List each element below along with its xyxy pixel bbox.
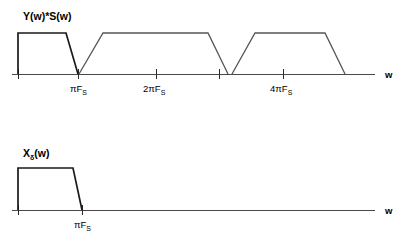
- baseband-spectrum: [18, 168, 82, 210]
- tick-label-4pi-fs: 4πFS: [270, 83, 293, 96]
- bottom-plot-title: Xδ(w): [23, 147, 49, 161]
- top-plot: Y(w)*S(w) πFS 2πFS 4πFS: [12, 10, 393, 96]
- tick-label-pi-fs: πFS: [70, 83, 87, 96]
- bottom-plot-axis-label: w: [384, 205, 393, 216]
- spectral-replica-2: [232, 33, 345, 74]
- spectrum-figure: Y(w)*S(w) πFS 2πFS 4πFS: [0, 0, 419, 233]
- spectral-replica-baseband: [18, 33, 78, 74]
- top-plot-tick-labels: πFS 2πFS 4πFS: [70, 83, 293, 96]
- tick-label-pi-fs-bottom: πFS: [74, 219, 91, 232]
- spectral-replica-1: [79, 33, 228, 74]
- top-plot-title: Y(w)*S(w): [23, 10, 71, 22]
- top-plot-axis-label: w: [384, 69, 393, 80]
- figure-canvas: Y(w)*S(w) πFS 2πFS 4πFS: [0, 0, 419, 233]
- tick-label-2pi-fs: 2πFS: [143, 83, 166, 96]
- bottom-plot: Xδ(w) πFS w: [12, 147, 393, 232]
